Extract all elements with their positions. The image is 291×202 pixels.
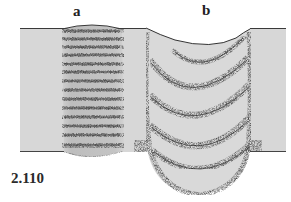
panel-a-label: a (73, 3, 81, 20)
panel-a-column (62, 25, 124, 157)
panel-b-cup (134, 27, 262, 195)
panel-b-label: b (202, 2, 210, 19)
figure-number: 2.110 (11, 170, 44, 187)
figure: a b 2.110 (0, 0, 291, 202)
